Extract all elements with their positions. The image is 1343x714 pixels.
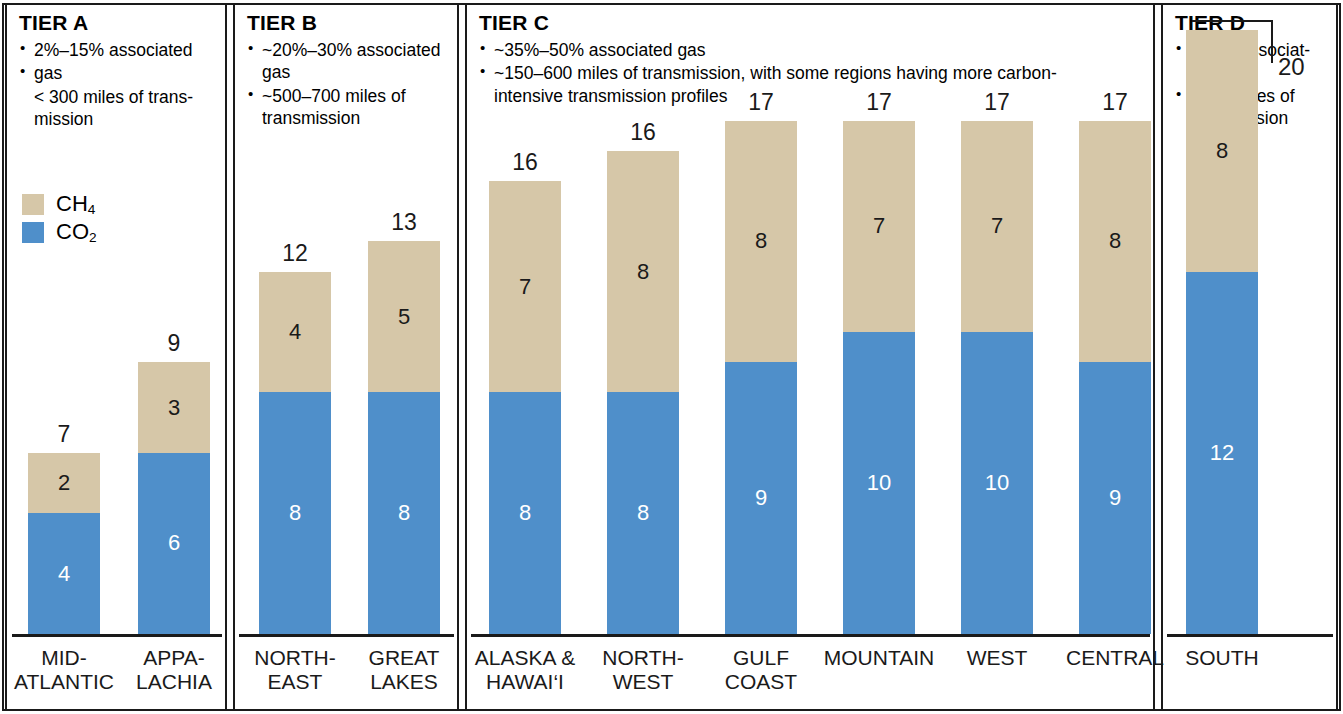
legend-label-subscript: 2: [89, 230, 97, 245]
tier-bullet-item: ~900 miles of transmission: [1175, 85, 1330, 129]
tiered-emissions-figure: TIER A2%–15% associatedgas< 300 miles of…: [0, 0, 1343, 714]
legend-label-subscript: 4: [88, 202, 96, 217]
tier-bullet-item: ~20%–30% associated gas: [247, 39, 451, 83]
chart-legend: CH4CO2: [22, 190, 97, 246]
tier-panel-c: TIER C~35%–50% associated gas~150–600 mi…: [465, 5, 1155, 709]
tier-title: TIER C: [479, 11, 1147, 35]
legend-swatch-ch4-icon: [22, 194, 44, 215]
panel-divider-right: [457, 5, 459, 709]
panel-divider-left: [5, 5, 7, 709]
panel-divider-left: [465, 5, 467, 709]
tier-bullet-list: 2%–15% associatedgas< 300 miles of trans…: [19, 39, 219, 130]
tier-panel-d: TIER D~60% associat- ed gas~900 miles of…: [1161, 5, 1338, 709]
legend-label-ch4: CH4: [56, 193, 95, 215]
tier-bullet-item: ~150–600 miles of transmission, with som…: [479, 62, 1147, 106]
legend-label-co2: CO2: [56, 221, 97, 243]
panel-divider-right: [225, 5, 227, 709]
legend-label-text: CO: [56, 219, 89, 244]
tier-title: TIER D: [1175, 11, 1330, 35]
tier-bullet-list: ~35%–50% associated gas~150–600 miles of…: [479, 39, 1147, 107]
panel-divider-left: [233, 5, 235, 709]
legend-swatch-co2-icon: [22, 222, 44, 243]
panel-divider-right: [1153, 5, 1155, 709]
legend-label-text: CH: [56, 191, 88, 216]
legend-item-ch4: CH4: [22, 190, 97, 218]
tier-header-a: TIER A2%–15% associatedgas< 300 miles of…: [19, 11, 219, 131]
tier-bullet-item: ~35%–50% associated gas: [479, 39, 1147, 61]
tier-header-c: TIER C~35%–50% associated gas~150–600 mi…: [479, 11, 1147, 108]
panel-divider-left: [1161, 5, 1163, 709]
tier-panel-a: TIER A2%–15% associatedgas< 300 miles of…: [5, 5, 227, 709]
tier-bullet-item: ~60% associat- ed gas: [1175, 39, 1330, 83]
tier-bullet-item: 2%–15% associated: [19, 39, 219, 61]
tier-bullet-item: ~500–700 miles of transmission: [247, 85, 451, 129]
tier-panel-b: TIER B~20%–30% associated gas~500–700 mi…: [233, 5, 459, 709]
tier-bullet-list: ~60% associat- ed gas~900 miles of trans…: [1175, 39, 1330, 129]
tier-title: TIER A: [19, 11, 219, 35]
tier-header-b: TIER B~20%–30% associated gas~500–700 mi…: [247, 11, 451, 130]
tier-bullet-item: < 300 miles of trans- mission: [19, 86, 219, 130]
tier-header-d: TIER D~60% associat- ed gas~900 miles of…: [1175, 11, 1330, 130]
tier-bullet-list: ~20%–30% associated gas~500–700 miles of…: [247, 39, 451, 129]
tier-title: TIER B: [247, 11, 451, 35]
legend-item-co2: CO2: [22, 218, 97, 246]
tier-bullet-item: gas: [19, 62, 219, 84]
panel-divider-right: [1336, 5, 1338, 709]
